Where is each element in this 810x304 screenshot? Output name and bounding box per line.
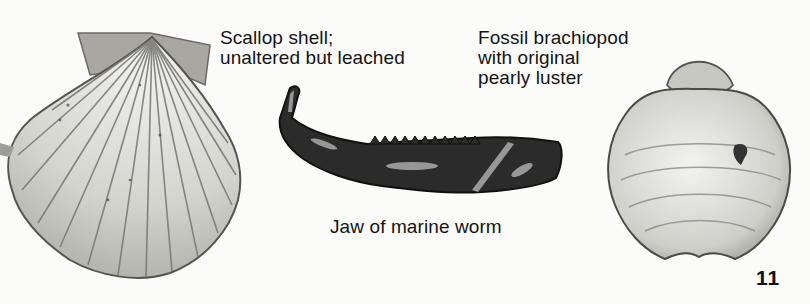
scallop-shell-illustration	[0, 25, 250, 295]
worm-jaw-caption: Jaw of marine worm	[330, 217, 502, 237]
caption-line: unaltered but leached	[220, 48, 405, 68]
caption-line: Fossil brachiopod	[478, 28, 629, 48]
caption-line: Scallop shell;	[220, 28, 405, 48]
scallop-shell-caption: Scallop shell; unaltered but leached	[220, 28, 405, 68]
caption-line: with original	[478, 48, 629, 68]
marine-worm-jaw-illustration	[272, 82, 567, 202]
caption-line: Jaw of marine worm	[330, 217, 502, 237]
caption-line: pearly luster	[478, 68, 629, 88]
page-number: 11	[756, 266, 780, 290]
brachiopod-caption: Fossil brachiopod with original pearly l…	[478, 28, 629, 88]
